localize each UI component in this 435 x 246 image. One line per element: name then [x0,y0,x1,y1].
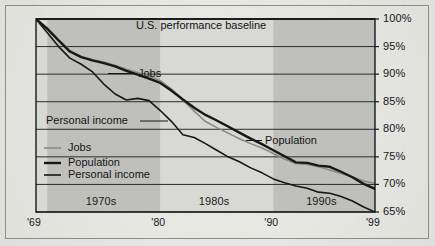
annotation-population: Population [265,134,317,146]
x-tick-label-1969: '69 [27,216,41,228]
y-tick-label-100: 100% [383,12,412,24]
annotation-baseline: U.S. performance baseline [136,19,266,31]
x-tick-label-1999: '99 [366,216,380,228]
annotation-jobs: Jobs [138,67,161,79]
y-tick-label-70: 70% [383,177,405,189]
legend-label-personal-income: Personal income [68,168,150,180]
decade-label-1990s: 1990s [306,195,336,207]
figure-page: 100%95%90%85%80%75%70%65% '69'80'90'99 1… [0,0,435,246]
y-tick-label-90: 90% [383,67,405,79]
legend-label-population: Population [68,156,120,168]
x-tick-label-1980: '80 [151,216,165,228]
legend-label-jobs: Jobs [68,141,91,153]
annotation-personal-income: Personal income [46,114,128,126]
decade-band-1990s [273,19,375,212]
decade-band-1980s [160,19,273,212]
decade-label-1970s: 1970s [86,195,116,207]
y-tick-label-95: 95% [383,40,405,52]
y-tick-label-75: 75% [383,150,405,162]
y-tick-label-65: 65% [383,205,405,217]
y-tick-label-85: 85% [383,95,405,107]
decade-label-1980s: 1980s [199,195,229,207]
y-tick-label-80: 80% [383,122,405,134]
x-tick-label-1990: '90 [264,216,278,228]
